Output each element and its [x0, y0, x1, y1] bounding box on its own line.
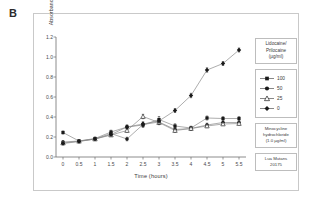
x-tick-label: 2 — [126, 161, 129, 167]
strain-annotation-box: Lua Mutans20175 — [255, 153, 297, 171]
x-axis-title: Time (hours) — [56, 173, 246, 179]
x-tick-label: 1 — [94, 161, 97, 167]
legend-title-line-1: Prilocaine — [258, 48, 294, 55]
x-tick-label: 0 — [62, 161, 65, 167]
open-triangle-icon — [259, 95, 275, 102]
series-0 — [61, 48, 241, 146]
x-tick-label: 3.5 — [172, 161, 179, 167]
x-tick-label: 5.5 — [236, 161, 243, 167]
y-tick-label: 0.0 — [46, 154, 53, 160]
y-tick-label: 0.8 — [46, 74, 53, 80]
data-point — [221, 117, 224, 120]
figure-frame: Absorbance (A590 nm) Time (hours) 0.00.2… — [33, 13, 299, 191]
filled-square-icon — [259, 75, 275, 82]
legend-entry-0[interactable]: 0 — [259, 104, 294, 113]
x-tick-label: 0.5 — [76, 161, 83, 167]
filled-circle-icon — [259, 85, 275, 92]
series-line — [63, 118, 239, 141]
x-tick-label: 2.5 — [140, 161, 147, 167]
data-point — [237, 117, 240, 120]
legend-entry-label: 25 — [277, 96, 282, 101]
data-point — [125, 137, 129, 141]
y-tick-label: 0.6 — [46, 94, 53, 100]
strain-line-1: 20175 — [258, 162, 294, 168]
y-tick-label: 0.4 — [46, 114, 53, 120]
legend-entry-label: 0 — [277, 106, 280, 111]
legend-column: Lidocaine/Prilocaine(µg/ml) 10050250 Min… — [255, 38, 297, 176]
data-point — [61, 131, 64, 134]
legend-title-line-2: (µg/ml) — [258, 54, 294, 61]
legend-entry-100[interactable]: 100 — [259, 74, 294, 83]
y-axis-title-main: Absorbance (A — [48, 0, 54, 25]
x-tick-label: 4.5 — [204, 161, 211, 167]
data-point — [205, 68, 209, 72]
filled-diamond-icon — [259, 105, 275, 112]
data-point — [141, 114, 145, 118]
legend-entries-box: 10050250 — [255, 69, 297, 118]
legend-entry-50[interactable]: 50 — [259, 84, 294, 93]
x-tick-label: 1.5 — [108, 161, 115, 167]
legend-entry-25[interactable]: 25 — [259, 94, 294, 103]
legend-title-line-0: Lidocaine/ — [258, 41, 294, 48]
x-tick-label: 4 — [190, 161, 193, 167]
x-tick-label: 5 — [222, 161, 225, 167]
minocycline-line-2: (1.0 µg/ml) — [258, 138, 294, 144]
series-line — [63, 50, 239, 144]
plot-area: Absorbance (A590 nm) Time (hours) 0.00.2… — [56, 37, 246, 157]
panel-label: B — [9, 8, 17, 19]
data-point — [173, 124, 176, 127]
y-tick-label: 1.0 — [46, 54, 53, 60]
minocycline-annotation-box: Minocyclinehydrochloride(1.0 µg/ml) — [255, 123, 297, 148]
plot-svg — [56, 37, 246, 157]
legend-entry-label: 100 — [277, 76, 285, 81]
legend-title-box: Lidocaine/Prilocaine(µg/ml) — [255, 38, 297, 64]
y-tick-label: 1.2 — [46, 34, 53, 40]
figure-panel-b: B Absorbance (A590 nm) Time (hours) 0.00… — [0, 0, 309, 204]
x-tick-label: 3 — [158, 161, 161, 167]
legend-entry-label: 50 — [277, 86, 282, 91]
y-tick-label: 0.2 — [46, 134, 53, 140]
series-100 — [61, 116, 240, 143]
data-point — [205, 116, 208, 119]
